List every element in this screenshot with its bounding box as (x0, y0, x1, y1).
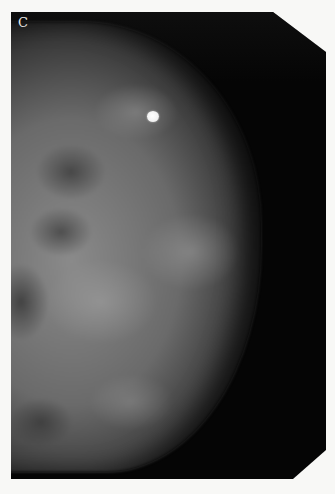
figure-page: C (0, 0, 335, 494)
breast-tissue-edge (11, 22, 261, 472)
skin-marker (147, 111, 159, 122)
panel-label: C (18, 15, 28, 30)
mammogram-film: C (11, 12, 326, 479)
